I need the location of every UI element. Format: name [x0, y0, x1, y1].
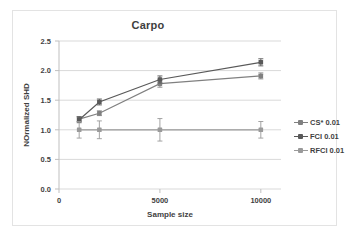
svg-text:1.0: 1.0 [41, 126, 51, 135]
legend-label: RFCI 0.01 [310, 146, 344, 155]
svg-text:2.0: 2.0 [41, 66, 51, 75]
legend-marker-icon [294, 132, 308, 141]
x-tick-labels: 0500010000 [57, 196, 271, 205]
chart-plot-area: 0.00.51.01.52.02.5 0500010000 Sample siz… [13, 11, 338, 227]
legend-marker-icon [294, 146, 308, 155]
svg-text:1.5: 1.5 [41, 96, 51, 105]
svg-text:0.5: 0.5 [41, 155, 51, 164]
svg-text:NOrmalized SHD: NOrmalized SHD [22, 83, 31, 147]
legend-item-rfci[interactable]: RFCI 0.01 [294, 143, 350, 157]
y-tick-labels: 0.00.51.01.52.02.5 [41, 37, 51, 194]
legend-label: CS* 0.01 [310, 118, 340, 127]
legend-label: FCI 0.01 [310, 132, 339, 141]
legend-marker-icon [294, 118, 308, 127]
svg-text:10000: 10000 [250, 196, 271, 205]
svg-text:5000: 5000 [152, 196, 169, 205]
legend-item-cs[interactable]: CS* 0.01 [294, 115, 350, 129]
legend-item-fci[interactable]: FCI 0.01 [294, 129, 350, 143]
chart-frame: Carpo 0.00.51.01.52.02.5 0500010000 Samp… [12, 10, 337, 226]
svg-text:0.0: 0.0 [41, 185, 51, 194]
svg-text:0: 0 [57, 196, 61, 205]
svg-text:2.5: 2.5 [41, 37, 51, 46]
svg-text:Sample size: Sample size [147, 210, 193, 219]
chart-legend: CS* 0.01 FCI 0.01 RFCI 0.01 [294, 115, 350, 157]
